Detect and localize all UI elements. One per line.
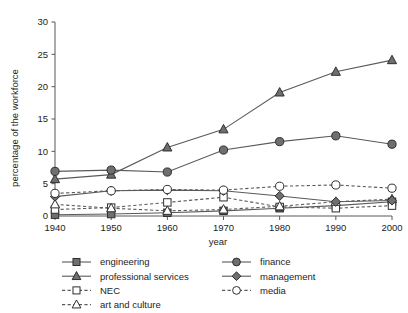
legend-label: finance xyxy=(260,256,291,267)
data-point-open-circle xyxy=(219,186,227,194)
y-tick-label: 20 xyxy=(37,81,48,92)
x-tick-label: 1950 xyxy=(101,222,122,233)
legend-label: management xyxy=(260,271,316,282)
chart-background xyxy=(0,0,408,313)
x-axis-title: year xyxy=(209,236,227,247)
y-tick-label: 5 xyxy=(43,178,48,189)
legend-label: professional services xyxy=(100,271,189,282)
y-tick-label: 30 xyxy=(37,16,48,27)
line-chart: 051015202530 194019501960197019801990200… xyxy=(0,0,408,313)
x-tick-label: 1990 xyxy=(325,222,346,233)
y-tick-label: 10 xyxy=(37,146,48,157)
legend-item-art-and-culture[interactable]: art and culture xyxy=(62,299,161,310)
legend-label: media xyxy=(260,285,287,296)
x-tick-label: 1980 xyxy=(269,222,290,233)
data-point-open-circle xyxy=(332,181,340,189)
data-point-filled-circle xyxy=(276,138,284,146)
y-tick-label: 0 xyxy=(43,210,48,221)
legend-item-engineering[interactable]: engineering xyxy=(62,256,150,267)
data-point-open-square xyxy=(73,287,80,294)
data-point-filled-circle xyxy=(332,132,340,140)
data-point-open-circle xyxy=(107,187,115,195)
x-tick-label: 1940 xyxy=(44,222,65,233)
legend-label: NEC xyxy=(100,285,120,296)
data-point-open-circle xyxy=(51,189,59,197)
y-axis-title: percentage of the workforce xyxy=(9,69,20,187)
legend-label: engineering xyxy=(100,256,150,267)
x-tick-label: 1960 xyxy=(157,222,178,233)
data-point-filled-circle xyxy=(51,167,59,175)
data-point-filled-circle xyxy=(107,166,115,174)
legend-label: art and culture xyxy=(100,299,161,310)
chart-container: 051015202530 194019501960197019801990200… xyxy=(0,0,408,313)
data-point-open-circle xyxy=(163,185,171,193)
data-point-filled-circle xyxy=(388,140,396,148)
x-tick-label: 1970 xyxy=(213,222,234,233)
y-tick-label: 25 xyxy=(37,49,48,60)
data-point-filled-circle xyxy=(219,146,227,154)
data-point-filled-square xyxy=(73,258,80,265)
data-point-filled-circle xyxy=(233,258,241,266)
data-point-filled-circle xyxy=(163,168,171,176)
x-tick-label: 2000 xyxy=(381,222,402,233)
y-tick-label: 15 xyxy=(37,113,48,124)
data-point-open-circle xyxy=(233,287,241,295)
data-point-open-circle xyxy=(388,184,396,192)
data-point-open-circle xyxy=(276,182,284,190)
legend-item-management[interactable]: management xyxy=(222,271,316,282)
